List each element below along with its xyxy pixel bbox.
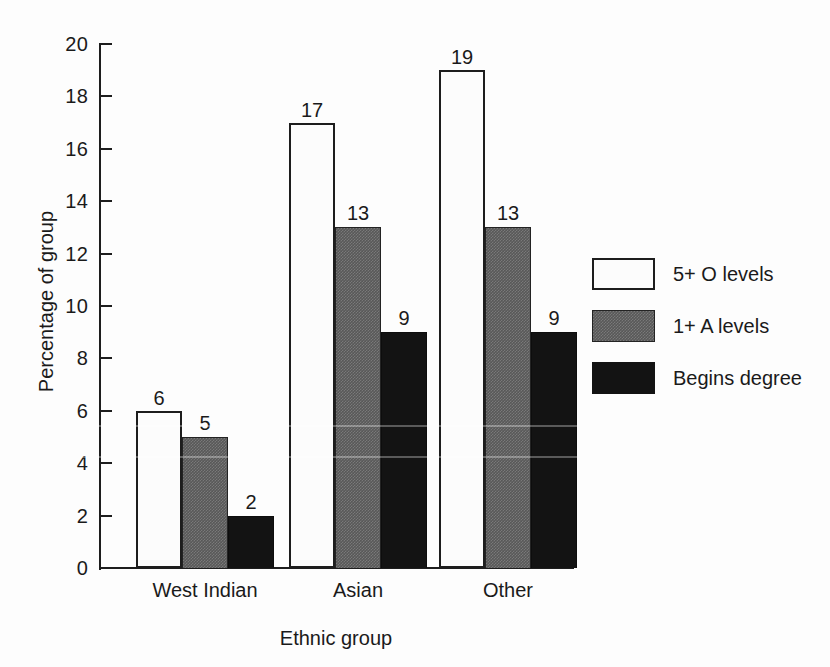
- bar-value-label: 6: [153, 388, 164, 408]
- y-axis-tick-label: 4: [46, 453, 88, 473]
- bar-value-label: 13: [497, 203, 519, 223]
- y-axis-tick-label: 8: [46, 348, 88, 368]
- legend-item[interactable]: 1+ A levels: [592, 300, 802, 352]
- bar-west-indian-series-1[interactable]: 5: [182, 437, 228, 568]
- legend-label: 5+ O levels: [673, 264, 774, 284]
- y-axis-tick-label: 0: [46, 558, 88, 578]
- bar-value-label: 9: [548, 308, 559, 328]
- legend-label: 1+ A levels: [673, 316, 769, 336]
- bar-value-label: 13: [347, 203, 369, 223]
- chart-figure: Percentage of group 02468101214161820 65…: [0, 0, 830, 667]
- legend-swatch: [592, 258, 655, 290]
- bar-value-label: 17: [301, 100, 323, 120]
- bar-value-label: 19: [451, 47, 473, 67]
- x-axis-category-label: West Indian: [152, 580, 257, 600]
- bar-value-label: 9: [398, 308, 409, 328]
- legend-item[interactable]: Begins degree: [592, 352, 802, 404]
- legend-label: Begins degree: [673, 368, 802, 388]
- bar-asian-series-2[interactable]: 9: [381, 332, 427, 568]
- y-axis-tick-label: 6: [46, 401, 88, 421]
- x-axis-title: Ethnic group: [280, 628, 392, 648]
- bar-west-indian-series-0[interactable]: 6: [136, 411, 182, 568]
- bar-asian-series-0[interactable]: 17: [289, 123, 335, 568]
- y-axis-tick-label: 20: [46, 34, 88, 54]
- x-axis-category-label: Asian: [333, 580, 383, 600]
- chart-legend: 5+ O levels1+ A levelsBegins degree: [592, 248, 802, 404]
- bar-other-series-0[interactable]: 19: [439, 70, 485, 568]
- y-axis-tick-label: 16: [46, 139, 88, 159]
- x-axis-category-label: Other: [483, 580, 533, 600]
- y-axis-tick-label: 14: [46, 191, 88, 211]
- bar-west-indian-series-2[interactable]: 2: [228, 516, 274, 568]
- plot-area: 6521713919139: [100, 44, 573, 568]
- bar-value-label: 5: [199, 413, 210, 433]
- y-axis-tick-label: 18: [46, 86, 88, 106]
- bar-asian-series-1[interactable]: 13: [335, 227, 381, 568]
- y-axis-tick-label: 12: [46, 244, 88, 264]
- bar-other-series-2[interactable]: 9: [531, 332, 577, 568]
- y-axis-tick-label: 2: [46, 506, 88, 526]
- bar-other-series-1[interactable]: 13: [485, 227, 531, 568]
- legend-swatch: [592, 310, 655, 342]
- legend-swatch: [592, 362, 655, 394]
- bar-value-label: 2: [245, 492, 256, 512]
- legend-item[interactable]: 5+ O levels: [592, 248, 802, 300]
- y-axis-tick-label: 10: [46, 296, 88, 316]
